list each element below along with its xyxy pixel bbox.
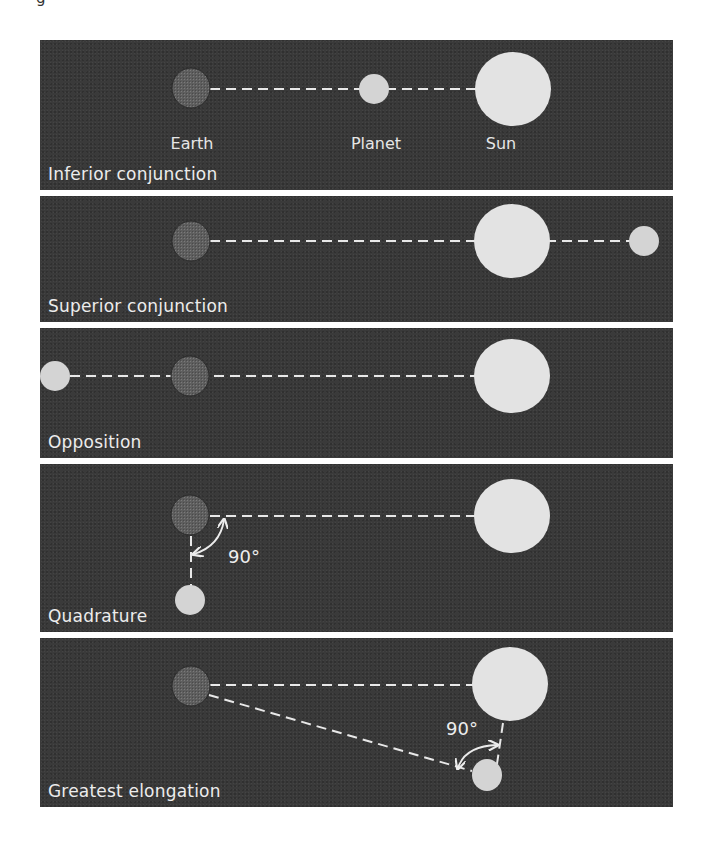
sun-icon xyxy=(474,339,550,413)
earth-label: Earth xyxy=(171,134,214,153)
planet-icon xyxy=(629,226,659,256)
earth-icon xyxy=(172,666,210,706)
sun-icon xyxy=(474,479,550,553)
earth-icon xyxy=(171,356,209,396)
panel-inferior-conjunction: Earth Planet Sun Inferior conjunction xyxy=(40,40,673,190)
angle-label: 90° xyxy=(446,718,478,739)
figure-caption-fragment: g xyxy=(36,0,46,7)
sun-icon xyxy=(472,647,548,721)
sun-icon xyxy=(475,52,551,126)
panel-quadrature: 90° Quadrature xyxy=(40,464,673,632)
panel-title: Superior conjunction xyxy=(48,296,228,316)
earth-planet-line xyxy=(209,695,472,771)
panel-superior-conjunction: Superior conjunction xyxy=(40,196,673,322)
sun-planet-line xyxy=(497,723,503,764)
planet-label: Planet xyxy=(351,134,401,153)
planet-icon xyxy=(359,74,389,104)
angle-label: 90° xyxy=(228,546,260,567)
planet-icon xyxy=(175,585,205,615)
planet-icon xyxy=(40,361,70,391)
sun-icon xyxy=(474,204,550,278)
sun-label: Sun xyxy=(486,134,516,153)
panel-title: Opposition xyxy=(48,432,142,452)
earth-icon xyxy=(172,68,210,108)
earth-icon xyxy=(171,495,209,535)
panel-greatest-elongation: 90° Greatest elongation xyxy=(40,638,673,807)
panel-title: Inferior conjunction xyxy=(48,164,217,184)
panel-opposition: Opposition xyxy=(40,328,673,458)
panel-title: Greatest elongation xyxy=(48,781,221,801)
planet-icon xyxy=(472,759,502,791)
earth-icon xyxy=(172,221,210,261)
panel-title: Quadrature xyxy=(48,606,147,626)
